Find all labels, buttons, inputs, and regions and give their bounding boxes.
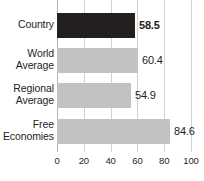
bar-free-economies[interactable] <box>57 119 170 144</box>
category-label-free-economies: Free Economies <box>0 119 54 142</box>
value-label-free-economies: 84.6 <box>174 125 195 137</box>
category-label-country: Country <box>0 19 54 31</box>
bar-regional-average[interactable] <box>57 83 131 108</box>
xtick-label-100: 100 <box>178 155 204 166</box>
plot-area <box>57 0 191 152</box>
category-label-world-average: World Average <box>0 48 54 71</box>
xtick-label-80: 80 <box>151 155 177 166</box>
bar-chart: Country World Average Regional Average F… <box>0 0 204 181</box>
xtick-label-40: 40 <box>98 155 124 166</box>
bar-world-average[interactable] <box>57 48 138 73</box>
xtick-label-60: 60 <box>124 155 150 166</box>
value-label-country: 58.5 <box>139 19 160 31</box>
bar-country[interactable] <box>57 13 135 38</box>
category-label-regional-average: Regional Average <box>0 83 54 106</box>
xtick-label-20: 20 <box>71 155 97 166</box>
value-label-world-average: 60.4 <box>142 54 163 66</box>
xtick-label-0: 0 <box>44 155 70 166</box>
value-label-regional-average: 54.9 <box>135 89 156 101</box>
